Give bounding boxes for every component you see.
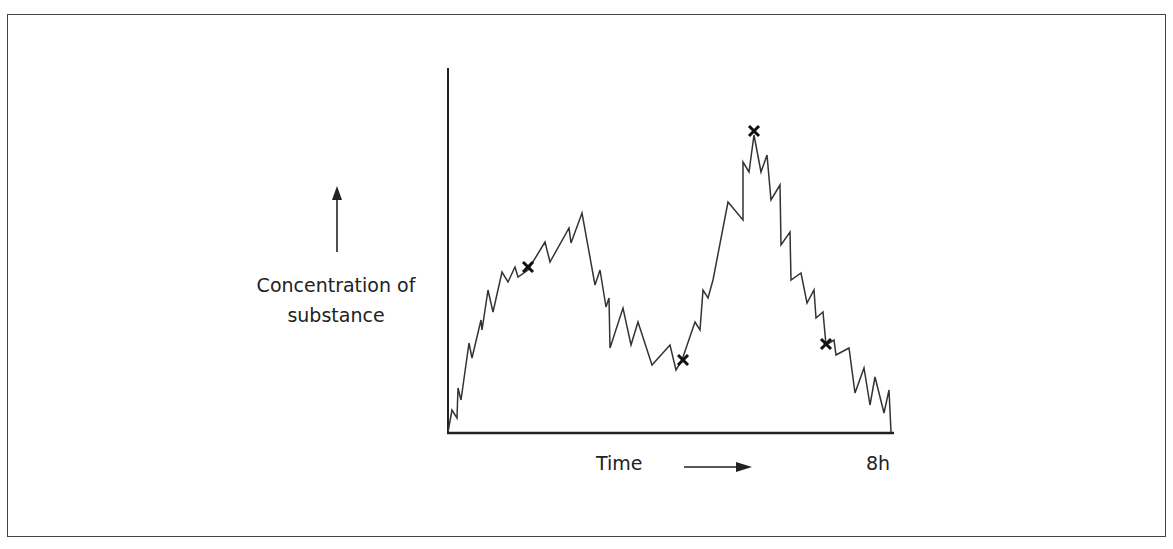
x-marker-icon (749, 126, 759, 136)
chart-plot-area (0, 0, 1173, 549)
y-axis-label-line2: substance (236, 300, 436, 330)
y-direction-arrow-icon (332, 186, 342, 252)
x-axis-end-label: 8h (866, 452, 890, 474)
y-axis-label: Concentration of substance (236, 270, 436, 330)
x-direction-arrow-icon (684, 462, 752, 472)
x-axis-label: Time (596, 452, 643, 474)
y-axis-label-line1: Concentration of (236, 270, 436, 300)
concentration-line (448, 135, 891, 432)
